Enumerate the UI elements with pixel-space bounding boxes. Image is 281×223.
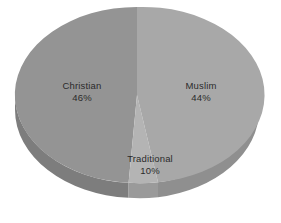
slice-label-muslim-name: Muslim (158, 80, 244, 92)
slice-label-christian: Christian 46% (36, 80, 128, 103)
slice-label-traditional-percent: 10% (98, 165, 202, 177)
slice-label-muslim: Muslim 44% (158, 80, 244, 103)
pie-chart: Christian 46% Muslim 44% Traditional 10% (0, 0, 281, 223)
slice-label-traditional: Traditional 10% (98, 153, 202, 176)
slice-label-muslim-percent: 44% (158, 92, 244, 104)
slice-label-traditional-name: Traditional (98, 153, 202, 165)
pie-chart-graphic (0, 0, 281, 223)
slice-side-traditional (129, 182, 158, 198)
slice-label-christian-percent: 46% (36, 92, 128, 104)
slice-label-christian-name: Christian (36, 80, 128, 92)
